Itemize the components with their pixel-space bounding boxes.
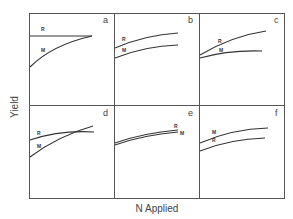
panel-b: R M [115,33,178,58]
panel-e-label-m: M [180,130,184,136]
panel-letter-e: e [188,108,193,118]
panel-b-label-r: R [122,36,126,42]
panel-d: R M [30,126,94,157]
panel-f: M R [200,128,268,151]
panel-d-label-m: M [37,143,41,149]
y-axis-label: Yield [9,96,20,118]
panel-f-label-m: M [212,129,216,135]
panel-f-label-r: R [212,137,216,143]
panel-letter-b: b [188,15,193,25]
panel-b-label-m: M [122,47,126,53]
panel-letter-f: f [275,108,278,118]
panel-letter-c: c [274,15,279,25]
panel-c-label-m: M [219,47,223,53]
panel-c-label-r: R [218,38,222,44]
x-axis-label: N Applied [136,203,179,214]
panel-letter-d: d [103,108,108,118]
panel-f-curve-r [200,138,265,151]
panel-c-curve-m [200,51,262,58]
panel-letter-a: a [103,15,108,25]
chart: a b c d e f R M R M R M R M R M [0,0,293,219]
panel-a-curve-m [30,36,92,67]
panel-e-label-r: R [174,123,178,129]
panel-a: R M [30,26,92,67]
panel-e: R M [115,123,184,145]
panel-a-label-r: R [41,26,45,32]
panel-c: R M [200,31,266,58]
panel-a-label-m: M [41,47,45,53]
panel-d-label-r: R [37,130,41,136]
